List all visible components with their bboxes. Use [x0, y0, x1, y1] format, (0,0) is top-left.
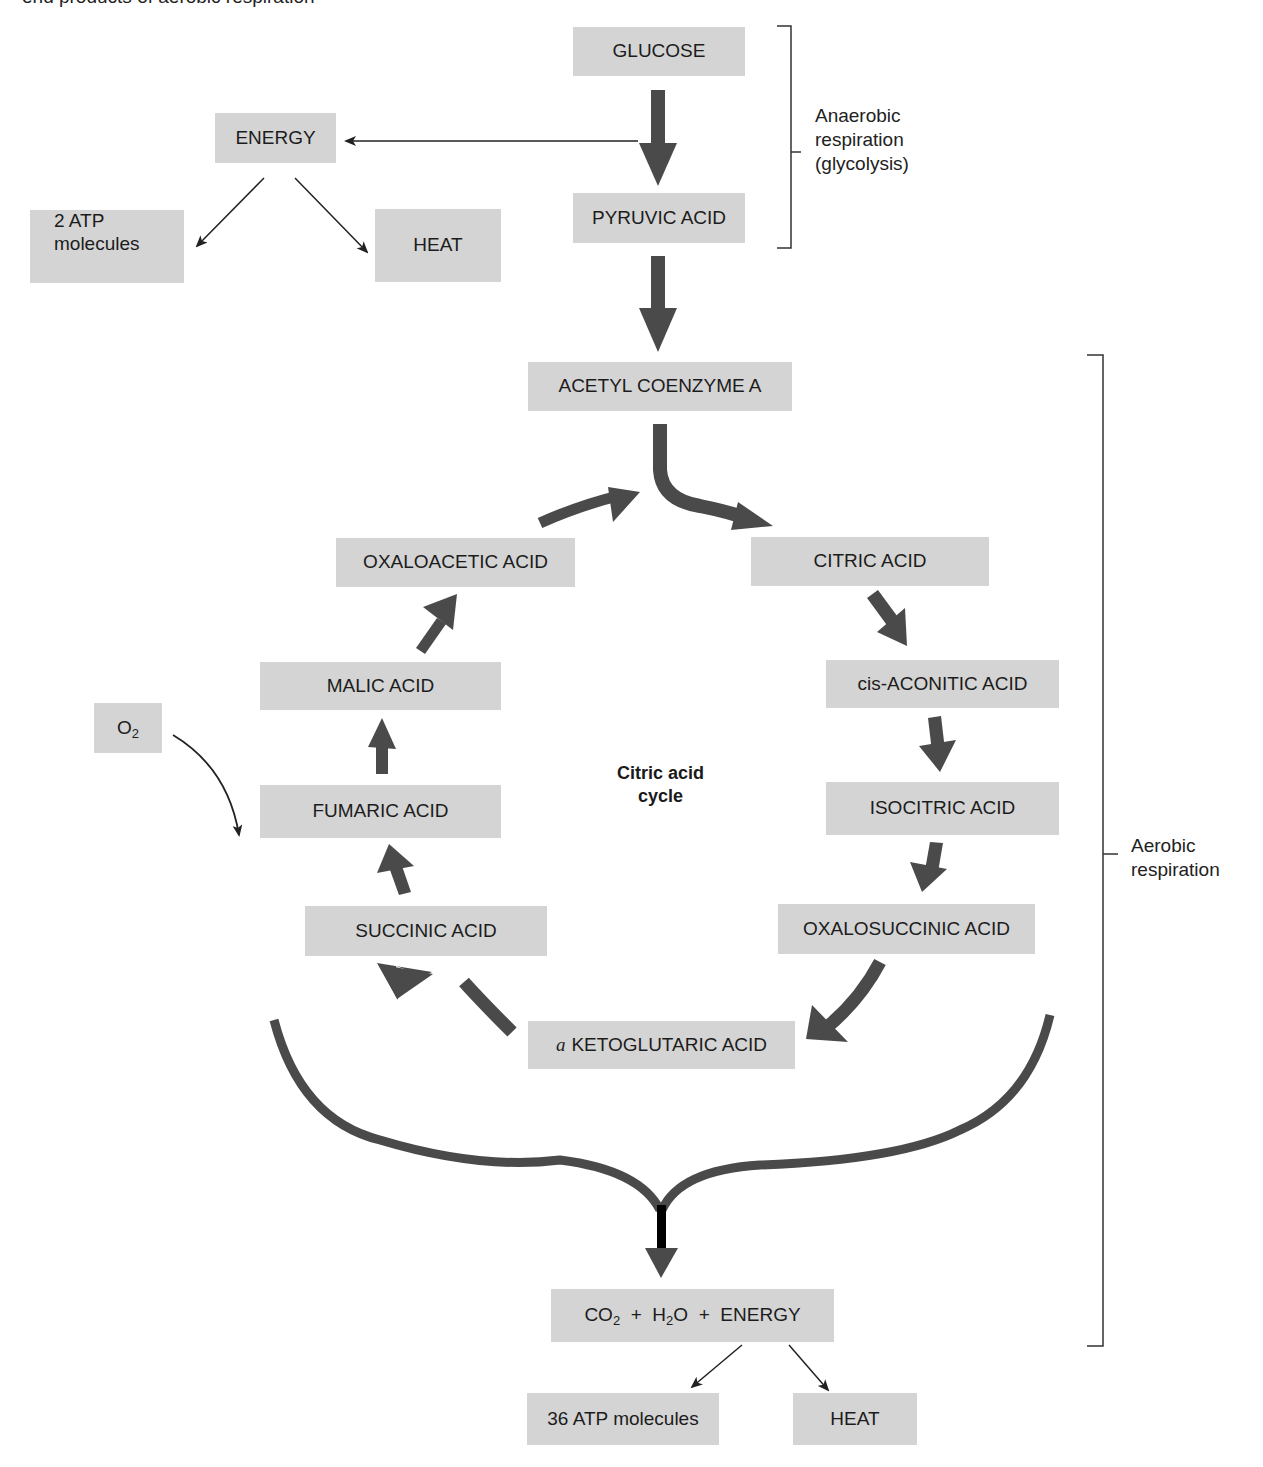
node-heat-bottom-label: HEAT [830, 1408, 879, 1431]
node-malic-label: MALIC ACID [327, 675, 435, 698]
aerobic-label: Aerobic respiration [1131, 834, 1220, 882]
arrow-pyruvic-to-acetyl [639, 256, 677, 352]
node-glucose-label: GLUCOSE [613, 40, 706, 63]
node-fumaric-acid: FUMARIC ACID [260, 785, 501, 838]
node-2-atp-line1: 2 ATP [54, 210, 104, 233]
node-acetyl-coenzyme-a: ACETYL COENZYME A [528, 362, 792, 411]
node-cis-aconitic-acid: cis-ACONITIC ACID [826, 660, 1059, 708]
arrow-isocitric-to-oxalosuccinic [910, 842, 947, 892]
node-final-products: CO2 + H2O + ENERGY [551, 1289, 834, 1342]
node-oxalosuccinic-label: OXALOSUCCINIC ACID [803, 918, 1010, 941]
node-o2: O2 [94, 703, 162, 753]
node-succinic-acid: SUCCINIC ACID [305, 906, 547, 956]
node-pyruvic-label: PYRUVIC ACID [592, 207, 726, 230]
arrow-energy-to-heat [295, 178, 367, 252]
arrow-energy-to-atp [197, 178, 264, 246]
node-citric-label: CITRIC ACID [814, 550, 927, 573]
anaerobic-line3: (glycolysis) [815, 152, 909, 176]
h2o-subscript: 2 [666, 1313, 673, 1328]
aerobic-bracket [1087, 355, 1118, 1346]
arrow-oxaloacetic-to-acetyl [540, 487, 640, 523]
node-pyruvic-acid: PYRUVIC ACID [573, 193, 745, 243]
alpha-prefix: a [556, 1034, 566, 1055]
node-ketoglutaric-label: aKETOGLUTARIC ACID [556, 1034, 767, 1057]
node-acetyl-label: ACETYL COENZYME A [558, 375, 761, 398]
node-cis-aconitic-label: cis-ACONITIC ACID [858, 673, 1028, 696]
node-36-atp: 36 ATP molecules [527, 1393, 719, 1445]
arrow-products-to-heat [789, 1345, 828, 1390]
arrow-glucose-to-pyruvic [639, 90, 677, 186]
cycle-label-line2: cycle [588, 785, 733, 808]
node-succinic-label: SUCCINIC ACID [355, 920, 496, 943]
co2-subscript: 2 [613, 1313, 620, 1328]
node-final-products-label: CO2 + H2O + ENERGY [584, 1304, 800, 1327]
node-isocitric-label: ISOCITRIC ACID [870, 797, 1016, 820]
arrow-citric-to-aconitic [867, 590, 907, 646]
node-alpha-ketoglutaric-acid: aKETOGLUTARIC ACID [528, 1021, 795, 1069]
node-glucose: GLUCOSE [573, 27, 745, 76]
arrow-o2-to-cycle [173, 735, 239, 835]
o-symbol: O [673, 1304, 688, 1325]
node-o2-label: O2 [117, 717, 139, 740]
citric-acid-cycle-label: Citric acid cycle [588, 762, 733, 809]
node-malic-acid: MALIC ACID [260, 662, 501, 710]
plus-sign-1: + [631, 1304, 642, 1325]
node-isocitric-acid: ISOCITRIC ACID [826, 782, 1059, 835]
node-36-atp-label: 36 ATP molecules [547, 1408, 698, 1431]
node-fumaric-label: FUMARIC ACID [312, 800, 448, 823]
o2-subscript: 2 [132, 726, 139, 741]
node-2-atp: 2 ATP molecules [30, 210, 184, 283]
anaerobic-bracket [777, 26, 801, 248]
cycle-label-line1: Citric acid [588, 762, 733, 785]
arrow-malic-to-oxaloacetic [416, 594, 457, 654]
o2-symbol: O [117, 717, 132, 738]
energy-word: ENERGY [720, 1304, 800, 1325]
anaerobic-label: Anaerobic respiration (glycolysis) [815, 104, 909, 175]
ketoglutaric-name: KETOGLUTARIC ACID [571, 1034, 767, 1055]
node-oxaloacetic-label: OXALOACETIC ACID [363, 551, 548, 574]
arrow-ketoglutaric-to-succinic [376, 945, 512, 1032]
node-heat-aerobic: HEAT [793, 1393, 917, 1445]
aerobic-line2: respiration [1131, 858, 1220, 882]
aerobic-line1: Aerobic [1131, 834, 1220, 858]
h-symbol: H [652, 1304, 666, 1325]
node-citric-acid: CITRIC ACID [751, 537, 989, 586]
node-oxaloacetic-acid: OXALOACETIC ACID [336, 538, 575, 587]
arrow-oxalosuccinic-to-ketoglutaric [806, 962, 880, 1042]
plus-sign-2: + [699, 1304, 710, 1325]
node-2-atp-line2: molecules [54, 233, 140, 256]
co-symbol: CO [584, 1304, 613, 1325]
node-energy-anaerobic: ENERGY [215, 113, 336, 163]
anaerobic-line1: Anaerobic [815, 104, 909, 128]
arrow-fumaric-to-malic [368, 718, 396, 774]
arrow-products-to-atp [692, 1345, 742, 1387]
node-oxalosuccinic-acid: OXALOSUCCINIC ACID [778, 904, 1035, 954]
node-heat-label: HEAT [413, 234, 462, 257]
arrow-succinic-to-fumaric [377, 844, 414, 895]
node-energy-label: ENERGY [235, 127, 315, 150]
node-heat-anaerobic: HEAT [375, 209, 501, 282]
anaerobic-line2: respiration [815, 128, 909, 152]
arrow-aconitic-to-isocitric [919, 716, 956, 772]
arrow-acetyl-to-citric [660, 424, 773, 530]
